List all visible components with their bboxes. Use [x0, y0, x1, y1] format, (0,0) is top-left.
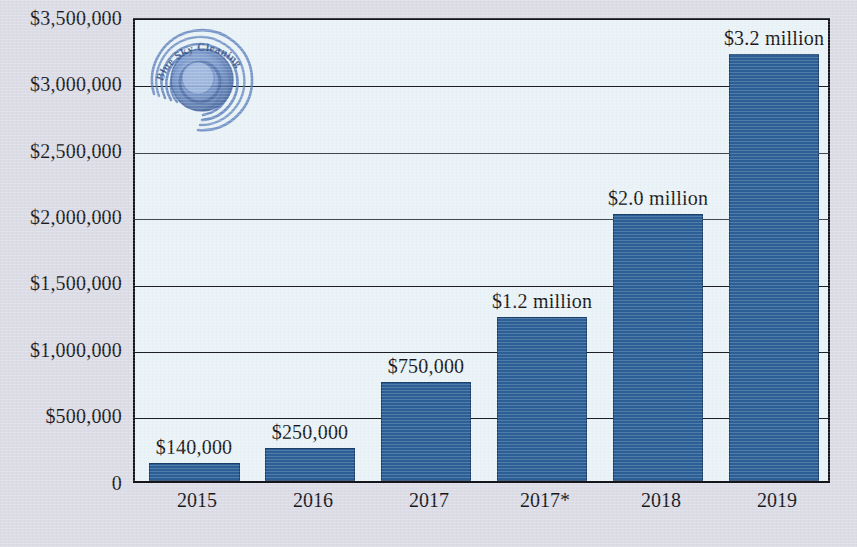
bar-label-2017: $750,000 — [361, 355, 491, 378]
gridline-3000000 — [135, 86, 828, 87]
x-axis: 2015 2016 2017 2017* 2018 2019 — [133, 489, 830, 523]
plot-area: Blue Sky Cleaning $140,000 $250,000 $750… — [133, 18, 830, 483]
bar-label-2019: $3.2 million — [704, 27, 844, 50]
svg-text:Blue Sky Cleaning: Blue Sky Cleaning — [153, 41, 245, 82]
x-tick-label-2018: 2018 — [596, 489, 726, 512]
blue-sky-cleaning-logo-icon: Blue Sky Cleaning — [146, 24, 258, 142]
gridline-1000000 — [135, 352, 828, 353]
y-axis: $3,500,000 $3,000,000 $2,500,000 $2,000,… — [0, 0, 125, 547]
bar-2017-restated — [497, 317, 587, 481]
y-tick-label-2000000: $2,000,000 — [0, 206, 122, 229]
bar-2016 — [265, 448, 355, 481]
y-tick-label-3500000: $3,500,000 — [0, 7, 122, 30]
y-tick-label-2500000: $2,500,000 — [0, 140, 122, 163]
gridline-2000000 — [135, 219, 828, 220]
bar-2017 — [381, 382, 471, 481]
bar-2019 — [729, 54, 819, 481]
y-tick-label-1000000: $1,000,000 — [0, 339, 122, 362]
x-tick-label-2015: 2015 — [132, 489, 262, 512]
y-tick-label-500000: $500,000 — [0, 405, 122, 428]
bar-2015 — [149, 463, 240, 481]
bar-label-2017-restated: $1.2 million — [472, 290, 612, 313]
gridline-500000 — [135, 418, 828, 419]
logo-wordmark: Blue Sky Cleaning — [153, 41, 245, 82]
x-tick-label-2017: 2017 — [364, 489, 494, 512]
bar-chart-figure: $3,500,000 $3,000,000 $2,500,000 $2,000,… — [0, 0, 857, 547]
y-tick-label-0: 0 — [0, 472, 122, 495]
x-tick-label-2017-restated: 2017* — [480, 489, 610, 512]
gridline-1500000 — [135, 286, 828, 287]
bar-2018 — [613, 214, 703, 481]
x-tick-label-2019: 2019 — [712, 489, 842, 512]
bar-label-2015: $140,000 — [129, 436, 259, 459]
bar-label-2016: $250,000 — [245, 421, 375, 444]
x-tick-label-2016: 2016 — [248, 489, 378, 512]
gridline-2500000 — [135, 153, 828, 154]
y-tick-label-1500000: $1,500,000 — [0, 272, 122, 295]
y-tick-label-3000000: $3,000,000 — [0, 73, 122, 96]
bar-label-2018: $2.0 million — [588, 187, 728, 210]
